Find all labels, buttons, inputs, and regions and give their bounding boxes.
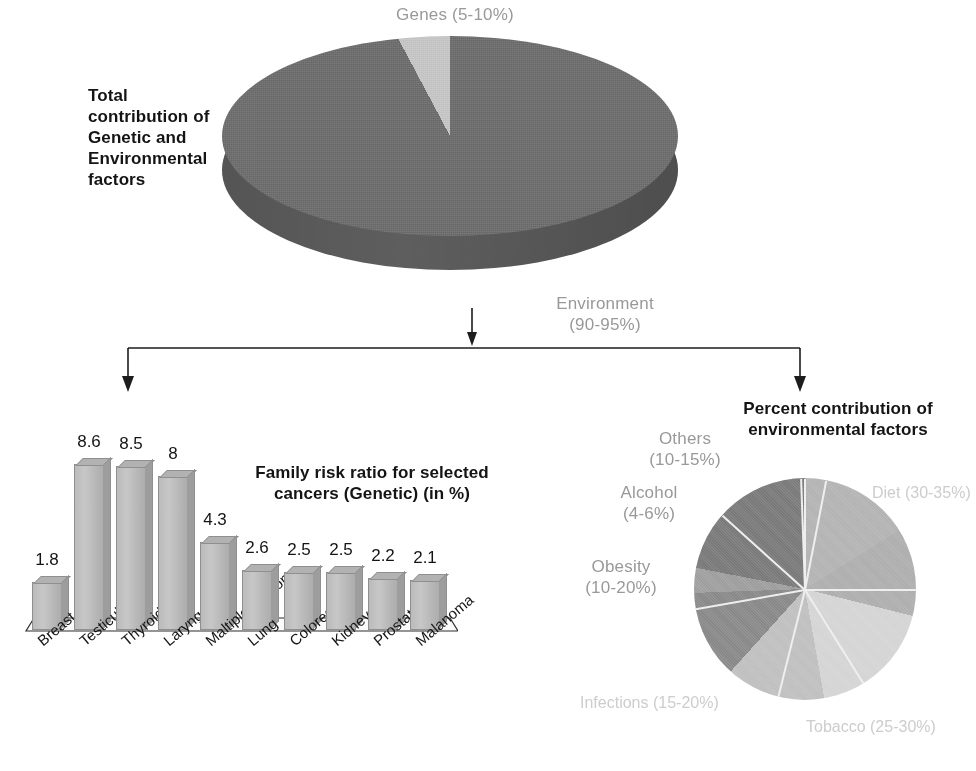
bar-value-label: 2.5: [318, 540, 364, 560]
family-risk-bar-chart: 1.8Breast8.6Testicular8.5Thyroid8Larynge…: [18, 430, 458, 630]
bar-thyroid: [116, 466, 146, 630]
pie-slice-label-obesity: Obesity (10-20%): [556, 556, 686, 598]
connector-arrows: [0, 300, 976, 400]
bar-value-label: 2.5: [276, 540, 322, 560]
pie-slice-label-diet: Diet (30-35%): [872, 484, 976, 502]
bar-value-label: 8.6: [66, 432, 112, 452]
bar-value-label: 2.6: [234, 538, 280, 558]
bar-value-label: 2.1: [402, 548, 448, 568]
total-contribution-pie-chart: [222, 28, 678, 278]
pie-slice-label-genes: Genes (5-10%): [340, 4, 570, 25]
pie-slice-label-tobacco: Tobacco (25-30%): [806, 718, 946, 736]
bar-laryngeal: [158, 476, 188, 630]
bar-value-label: 4.3: [192, 510, 238, 530]
bar-value-label: 2.2: [360, 546, 406, 566]
figure-title-total-contribution: Total contribution of Genetic and Enviro…: [88, 85, 256, 190]
pie-texture: [222, 36, 678, 236]
figure-title-family-risk: Family risk ratio for selected cancers (…: [232, 462, 512, 504]
pie-slice-label-others: Others (10-15%): [620, 428, 750, 470]
pie-3d-top-face: [222, 36, 678, 236]
bar-value-label: 8.5: [108, 434, 154, 454]
figure-title-environmental-factors: Percent contribution of environmental fa…: [718, 398, 958, 440]
pie-texture: [694, 478, 916, 700]
environmental-factors-pie-chart: [694, 478, 916, 700]
bar-value-label: 1.8: [24, 550, 70, 570]
pie-slice-label-infections: Infections (15-20%): [580, 694, 720, 712]
bar-testicular: [74, 464, 104, 630]
pie-slice-label-alcohol: Alcohol (4-6%): [584, 482, 714, 524]
bar-value-label: 8: [150, 444, 196, 464]
